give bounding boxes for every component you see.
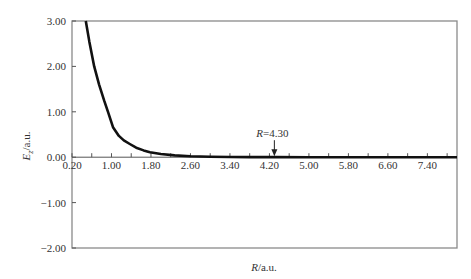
x-tick-label: 1.80 — [141, 159, 161, 171]
x-tick-label: 2.60 — [181, 159, 201, 171]
y-axis-ticks: 3.002.001.000.00−1.00−2.00 — [41, 15, 76, 254]
annotation-arrow-icon — [271, 149, 277, 156]
y-tick-label: 1.00 — [47, 106, 67, 118]
x-tick-label: 1.00 — [102, 159, 122, 171]
y-axis-title: Ez/a.u. — [20, 131, 35, 161]
x-tick-label: 6.60 — [378, 159, 398, 171]
y-tick-label: −1.00 — [41, 197, 67, 209]
x-tick-label: 5.80 — [339, 159, 359, 171]
y-tick-label: 2.00 — [47, 60, 67, 72]
x-tick-label: 0.20 — [62, 159, 82, 171]
annotation-r-4-30: R=4.30 — [255, 127, 289, 156]
y-tick-label: −2.00 — [41, 242, 67, 254]
y-tick-label: 3.00 — [47, 15, 67, 27]
chart-canvas: 3.002.001.000.00−1.00−2.00 0.201.001.802… — [0, 0, 471, 279]
x-axis-title: R/a.u. — [250, 261, 277, 273]
annotation-label: R=4.30 — [255, 127, 289, 139]
x-tick-label: 3.40 — [220, 159, 240, 171]
x-tick-label: 5.00 — [299, 159, 319, 171]
x-tick-label: 7.40 — [418, 159, 438, 171]
x-tick-label: 4.20 — [260, 159, 280, 171]
